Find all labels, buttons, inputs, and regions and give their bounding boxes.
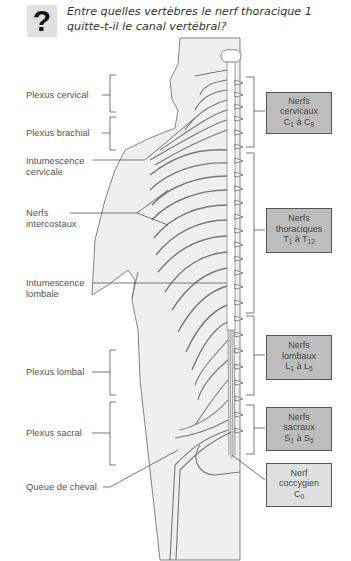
label-plexus-lombal: Plexus lombal [26,366,84,378]
label-plexus-sacral: Plexus sacral [26,427,82,439]
box-line2: cervicaux [267,106,331,117]
label-intumescence-cervicale-1: Intumescence [26,155,84,167]
box-nerfs-cervicaux: Nerfs cervicaux C1 à C8 [266,92,332,134]
box-line2: coccygien [267,478,331,489]
label-nerfs-intercostaux-2: intercostaux [26,218,77,230]
box-range: S1 à S5 [267,433,331,447]
box-line1: Nerf [267,468,331,479]
box-range: L1 à L5 [267,361,331,375]
box-range: T1 à T12 [267,234,331,248]
label-intumescence-lombale-1: Intumescence [26,277,84,289]
box-line2: sacraux [267,422,331,433]
body-silhouette [92,38,240,560]
label-plexus-brachial: Plexus brachial [26,127,90,139]
box-nerfs-thoraciques: Nerfs thoraciques T1 à T12 [266,208,332,253]
box-nerf-coccygien: Nerf coccygien C0 [266,463,332,507]
box-line2: lombaux [267,351,331,362]
box-line1: Nerfs [267,213,331,224]
box-line1: Nerfs [267,340,331,351]
box-range: C0 [267,489,331,503]
box-nerfs-lombaux: Nerfs lombaux L1 à L5 [266,335,332,380]
box-line1: Nerfs [267,96,331,107]
label-intumescence-lombale-2: lombale [26,288,59,300]
box-line1: Nerfs [267,412,331,423]
label-nerfs-intercostaux-1: Nerfs [26,207,48,219]
label-queue-de-cheval: Queue de cheval [26,481,97,493]
box-range: C1 à C8 [267,117,331,131]
box-line2: thoraciques [267,224,331,235]
label-intumescence-cervicale-2: cervicale [26,166,63,178]
label-plexus-cervical: Plexus cervical [26,89,89,101]
box-nerfs-sacraux: Nerfs sacraux S1 à S5 [266,407,332,451]
